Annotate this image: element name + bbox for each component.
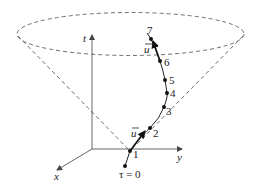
event-3-label: 3 [166,105,172,117]
event-4-label: 4 [170,87,176,99]
t-axis-label: t [83,32,87,44]
event-1-label: 1 [133,148,139,160]
event-6 [158,59,162,63]
event-6-label: 6 [164,56,170,68]
event-2-label: 2 [153,127,159,139]
event-7 [149,37,153,41]
event-4 [165,91,169,95]
light-cone-diagram: t y x u u τ = 0 1 2 3 4 5 6 7 [0,0,258,187]
event-5 [163,78,167,82]
start-label: τ = 0 [119,168,141,180]
x-axis [57,149,92,170]
u-vector-label-1: u [131,127,137,139]
u-vector-label-7: u [144,43,150,55]
u-vector-at-7 [153,41,160,61]
event-5-label: 5 [169,74,175,86]
event-7-label: 7 [147,24,153,36]
x-axis-label: x [53,170,59,182]
event-2 [148,126,152,130]
cone-left-edge [18,36,129,150]
cone-rim [17,13,244,56]
event-1 [128,149,132,153]
y-axis-label: y [176,151,182,163]
